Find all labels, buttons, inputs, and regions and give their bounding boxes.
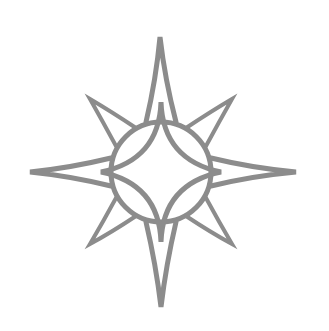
cardinal-rays	[30, 37, 296, 307]
sun-circle	[111, 122, 211, 222]
compass-star-emblem	[0, 0, 329, 331]
compass-star-icon	[0, 0, 329, 331]
